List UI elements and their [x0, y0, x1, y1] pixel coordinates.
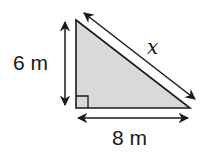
base-label: 8 m — [112, 126, 147, 149]
height-label: 6 m — [13, 51, 48, 74]
triangle-shape — [76, 20, 190, 108]
hypotenuse-label: x — [147, 35, 158, 59]
right-triangle-diagram: 6 m 8 m x — [0, 0, 204, 158]
